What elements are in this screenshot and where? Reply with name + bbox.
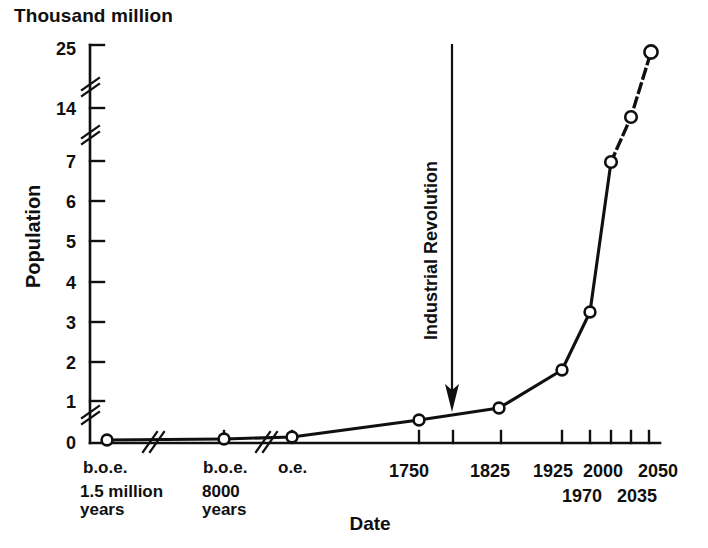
data-point-1750 [414, 415, 425, 426]
data-point-oe [287, 432, 298, 443]
data-point-2000 [605, 156, 617, 168]
data-point-1825 [494, 403, 505, 414]
observed-population-line [107, 162, 611, 440]
data-point-1970 [585, 307, 596, 318]
y-tick-marks [90, 45, 104, 401]
population-growth-chart: Thousand million Population Date 25 14 7… [0, 0, 708, 548]
projected-population-line [611, 52, 651, 162]
data-point-2035 [625, 111, 637, 123]
data-point-boe-1500000 [102, 435, 113, 446]
data-point-1925 [557, 365, 568, 376]
data-point-2050 [644, 45, 657, 58]
data-point-markers [102, 45, 658, 445]
plot-vector-layer [0, 0, 708, 548]
data-point-boe-8000 [219, 434, 230, 445]
